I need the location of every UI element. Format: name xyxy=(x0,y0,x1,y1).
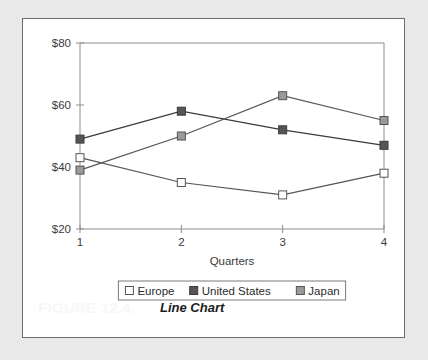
series-line xyxy=(80,96,384,170)
data-point-marker[interactable] xyxy=(76,135,84,143)
legend-swatch xyxy=(125,287,133,295)
series-line xyxy=(80,158,384,195)
x-axis-title: Quarters xyxy=(210,255,255,267)
data-point-marker[interactable] xyxy=(177,132,185,140)
legend-swatch xyxy=(190,287,198,295)
data-point-marker[interactable] xyxy=(177,179,185,187)
x-axis-tick-label: 1 xyxy=(77,236,83,248)
data-point-marker[interactable] xyxy=(279,92,287,100)
legend-label[interactable]: United States xyxy=(202,285,271,297)
data-point-marker[interactable] xyxy=(380,117,388,125)
figure-frame: $20$40$60$801234QuartersEuropeUnited Sta… xyxy=(22,18,405,338)
data-point-marker[interactable] xyxy=(76,166,84,174)
legend-label[interactable]: Japan xyxy=(308,285,339,297)
line-chart: $20$40$60$801234QuartersEuropeUnited Sta… xyxy=(23,19,406,339)
data-point-marker[interactable] xyxy=(76,154,84,162)
y-axis-tick-label: $60 xyxy=(52,99,71,111)
legend-label[interactable]: Europe xyxy=(137,285,174,297)
y-axis-tick-label: $80 xyxy=(52,37,71,49)
data-point-marker[interactable] xyxy=(380,169,388,177)
x-axis-tick-label: 4 xyxy=(381,236,388,248)
figure-number-label: FIGURE 12.4. xyxy=(38,299,136,316)
data-point-marker[interactable] xyxy=(177,107,185,115)
figure-caption: Line Chart xyxy=(160,300,224,315)
x-axis-tick-label: 2 xyxy=(178,236,184,248)
x-axis-tick-label: 3 xyxy=(279,236,285,248)
data-point-marker[interactable] xyxy=(279,126,287,134)
data-point-marker[interactable] xyxy=(380,141,388,149)
y-axis-tick-label: $40 xyxy=(52,161,71,173)
y-axis-tick-label: $20 xyxy=(52,223,71,235)
data-point-marker[interactable] xyxy=(279,191,287,199)
legend-swatch xyxy=(296,287,304,295)
